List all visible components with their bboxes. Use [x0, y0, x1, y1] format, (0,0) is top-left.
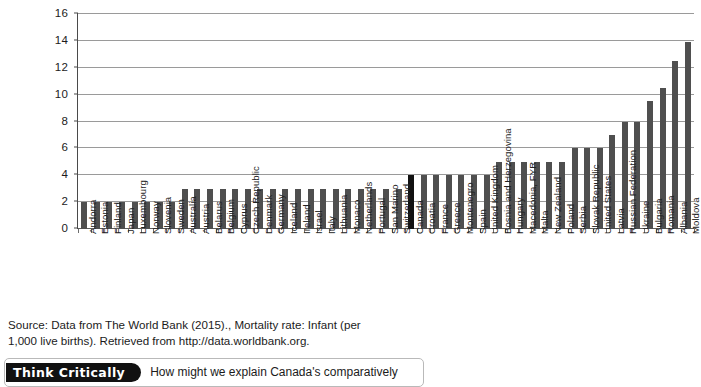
- x-label-slovak-republic: Slovak Republic: [591, 164, 601, 234]
- x-label-malta: Malta: [540, 210, 550, 234]
- source-note-line-1: Source: Data from The World Bank (2015).…: [8, 317, 428, 333]
- x-label-latvia: Latvia: [616, 208, 626, 234]
- x-label-united-states: United States: [603, 176, 613, 234]
- x-label-moldova: Moldova: [691, 197, 701, 234]
- x-label-ireland: Ireland: [302, 204, 312, 234]
- x-label-monaco: Monaco: [352, 200, 362, 234]
- x-label-slovenia: Slovenia: [163, 197, 173, 234]
- y-axis-tick-labels: 0246810121416: [0, 0, 78, 240]
- x-label-germany: Germany: [276, 194, 286, 234]
- x-label-new-zealand: New Zealand: [553, 177, 563, 234]
- y-tick-label-4: 4: [61, 168, 68, 180]
- y-tick-label-2: 2: [61, 195, 68, 207]
- x-label-iceland: Iceland: [289, 203, 299, 234]
- x-label-spain: Spain: [478, 209, 488, 234]
- think-critically-badge: Think Critically: [6, 363, 141, 382]
- y-tick-label-12: 12: [55, 61, 68, 73]
- x-label-italy: Italy: [327, 216, 337, 234]
- x-label-croatia: Croatia: [427, 203, 437, 234]
- x-label-israel: Israel: [314, 210, 324, 234]
- y-tick-label-10: 10: [55, 88, 68, 100]
- x-label-bosnia-and-herzegovina: Bosnia and Herzegovina: [503, 128, 513, 234]
- x-label-denmark: Denmark: [264, 195, 274, 234]
- x-label-france: France: [440, 204, 450, 234]
- x-label-romania: Romania: [666, 195, 676, 234]
- x-label-greece: Greece: [452, 202, 462, 234]
- x-label-macedonia-fyr: Macedonia, FYR: [528, 162, 538, 234]
- x-label-albania: Albania: [679, 202, 689, 234]
- x-label-australia: Australia: [188, 196, 198, 234]
- x-label-bulgaria: Bulgaria: [654, 198, 664, 234]
- y-tick-label-14: 14: [55, 34, 68, 46]
- infant-mortality-bar-chart: 0246810121416 AndorraEstoniaFinlandJapan…: [0, 0, 701, 310]
- x-label-switzerland: Switzerland: [402, 184, 412, 234]
- x-label-luxembourg: Luxembourg: [138, 180, 148, 234]
- x-label-belgium: Belgium: [226, 199, 236, 234]
- x-label-united-kingdom: United Kingdom: [490, 165, 500, 234]
- source-note: Source: Data from The World Bank (2015).…: [8, 317, 428, 348]
- y-tick-label-0: 0: [61, 222, 68, 234]
- x-label-andorra: Andorra: [88, 200, 98, 235]
- x-label-ukraine: Ukraine: [641, 201, 651, 234]
- x-label-netherlands: Netherlands: [364, 182, 374, 234]
- x-label-serbia: Serbia: [578, 206, 588, 234]
- think-critically-bar: Think Critically How might we explain Ca…: [6, 361, 406, 383]
- x-label-sweden: Sweden: [176, 199, 186, 234]
- x-label-belarus: Belarus: [214, 201, 224, 234]
- x-label-norway: Norway: [151, 201, 161, 234]
- x-label-montenegro: Montenegro: [465, 182, 475, 234]
- x-label-austria: Austria: [201, 204, 211, 234]
- x-label-portugal: Portugal: [377, 198, 387, 234]
- x-tick: [78, 229, 79, 233]
- x-label-japan: Japan: [126, 208, 136, 234]
- x-label-finland: Finland: [113, 202, 123, 234]
- source-note-line-2: 1,000 live births). Retrieved from http:…: [8, 333, 428, 349]
- y-tick-label-16: 16: [55, 7, 68, 19]
- x-label-hungary: Hungary: [515, 197, 525, 234]
- y-tick-label-6: 6: [61, 141, 68, 153]
- x-label-poland: Poland: [566, 204, 576, 234]
- x-label-cyprus: Cyprus: [239, 203, 249, 234]
- x-label-lithuania: Lithuania: [339, 195, 349, 234]
- x-label-russian-federation: Russian Federation: [628, 150, 638, 234]
- y-tick-label-8: 8: [61, 115, 68, 127]
- x-label-czech-republic: Czech Republic: [251, 166, 261, 234]
- x-label-estonia: Estonia: [100, 202, 110, 234]
- think-critically-question: How might we explain Canada's comparativ…: [150, 365, 398, 379]
- x-label-canada: Canada: [415, 200, 425, 234]
- x-label-san-marino: San Marino: [390, 184, 400, 234]
